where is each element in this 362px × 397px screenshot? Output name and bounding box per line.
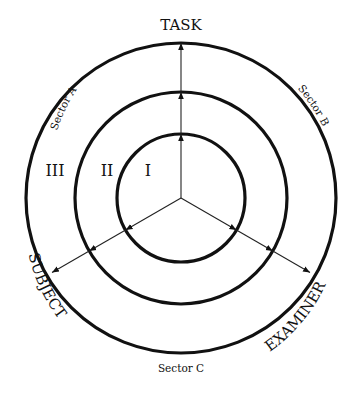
- zone-label-II: II: [101, 161, 114, 180]
- sector-c-label: Sector C: [158, 362, 204, 374]
- zone-label-I: I: [145, 161, 151, 180]
- arrow-icon: [126, 198, 181, 230]
- examiner-label: EXAMINER: [261, 278, 329, 356]
- diagram-canvas: TASK SUBJECT EXAMINER I II III Sector A …: [0, 0, 362, 397]
- arrow-icon: [181, 198, 236, 230]
- concentric-sector-diagram: TASK SUBJECT EXAMINER I II III Sector A …: [0, 0, 362, 397]
- arrow-icon: [273, 251, 310, 273]
- subject-label: SUBJECT: [25, 251, 71, 322]
- arrow-icon: [52, 251, 89, 273]
- arrow-icon: [89, 230, 125, 251]
- arrow-icon: [236, 230, 272, 251]
- zone-label-III: III: [46, 161, 65, 180]
- sector-a-label: Sector A: [48, 84, 79, 132]
- task-label: TASK: [160, 16, 202, 34]
